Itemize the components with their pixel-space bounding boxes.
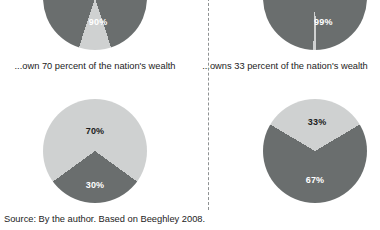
pie-chart-top-left: 90% [43, 0, 147, 50]
pie-slice-label-67: 67% [306, 175, 325, 185]
pie-chart-bottom-right: 33% 67% [263, 99, 367, 203]
source-note: Source: By the author. Based on Beeghley… [4, 214, 205, 224]
pie-chart-top-right: 99% [263, 0, 367, 50]
caption-right: ...owns 33 percent of the nation's wealt… [190, 60, 380, 72]
pie-slice-label-33: 33% [308, 117, 327, 127]
pie-slice-label-90: 90% [89, 17, 108, 27]
pie-chart-figure: 90% ...own 70 percent of the nation's we… [0, 0, 380, 230]
pie-slice-label-99: 99% [314, 17, 333, 27]
right-panel: 99% ...owns 33 percent of the nation's w… [190, 0, 380, 230]
pie-slice-label-30: 30% [86, 180, 105, 190]
pie-chart-bottom-left: 70% 30% [43, 99, 147, 203]
left-panel: 90% ...own 70 percent of the nation's we… [0, 0, 190, 230]
panel-divider [208, 0, 209, 210]
pie-slice-label-70: 70% [86, 126, 105, 136]
caption-left: ...own 70 percent of the nation's wealth [0, 60, 190, 72]
